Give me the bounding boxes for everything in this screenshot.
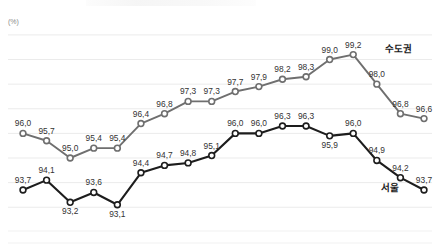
data-point-marker — [232, 130, 238, 136]
data-label: 95,9 — [321, 140, 338, 150]
data-label: 94,7 — [156, 150, 173, 160]
data-point-marker — [185, 98, 191, 104]
data-label: 95,0 — [62, 143, 79, 153]
series-label-seoul: 서울 — [381, 180, 399, 194]
data-label: 98,0 — [369, 69, 386, 79]
data-point-marker — [374, 158, 380, 164]
data-label: 96,3 — [298, 111, 315, 121]
data-point-marker — [162, 162, 168, 168]
data-point-marker — [138, 170, 144, 176]
data-point-marker — [162, 111, 168, 117]
data-point-marker — [350, 130, 356, 136]
data-point-marker — [232, 89, 238, 95]
data-label: 93,2 — [62, 206, 79, 216]
data-point-marker — [20, 187, 26, 193]
chart-container: (%) 96,095,795,095,495,496,496,897,397,3… — [0, 0, 435, 251]
data-point-marker — [421, 116, 427, 122]
data-label: 97,9 — [251, 72, 268, 82]
series-group — [20, 52, 427, 208]
series-line-seoul — [23, 126, 424, 205]
data-label: 96,0 — [345, 118, 362, 128]
data-label: 96,3 — [274, 111, 291, 121]
data-label: 97,3 — [204, 86, 221, 96]
data-label: 98,3 — [298, 62, 315, 72]
data-point-marker — [374, 81, 380, 87]
data-point-marker — [303, 123, 309, 129]
series-line-sudogwon — [23, 55, 424, 158]
data-point-marker — [67, 155, 73, 161]
data-point-marker — [67, 199, 73, 205]
data-label: 99,0 — [321, 45, 338, 55]
data-label: 95,4 — [86, 133, 103, 143]
data-point-marker — [421, 187, 427, 193]
data-label: 96,8 — [392, 99, 409, 109]
data-label: 96,6 — [416, 104, 433, 114]
data-point-marker — [327, 133, 333, 139]
line-chart-plot: 96,095,795,095,495,496,496,897,397,397,7… — [0, 0, 435, 251]
data-label: 96,4 — [133, 109, 150, 119]
data-point-marker — [44, 138, 50, 144]
data-label: 95,4 — [109, 133, 126, 143]
data-label: 96,8 — [156, 99, 173, 109]
data-point-marker — [114, 202, 120, 208]
data-label: 97,3 — [180, 86, 197, 96]
data-label: 93,7 — [416, 175, 433, 185]
data-label: 95,1 — [204, 141, 221, 151]
data-label: 93,6 — [86, 177, 103, 187]
data-point-marker — [350, 52, 356, 58]
data-label: 94,1 — [38, 165, 55, 175]
data-point-marker — [303, 74, 309, 80]
data-point-marker — [91, 190, 97, 196]
data-point-marker — [256, 84, 262, 90]
data-point-marker — [280, 123, 286, 129]
data-point-marker — [327, 57, 333, 63]
data-point-marker — [256, 130, 262, 136]
data-point-marker — [209, 153, 215, 159]
data-label: 94,2 — [392, 163, 409, 173]
data-label: 98,2 — [274, 64, 291, 74]
data-point-marker — [114, 145, 120, 151]
data-labels-group: 96,095,795,095,495,496,496,897,397,397,7… — [15, 40, 433, 219]
data-point-marker — [209, 98, 215, 104]
data-point-marker — [44, 177, 50, 183]
data-label: 99,2 — [345, 40, 362, 50]
data-label: 94,8 — [180, 148, 197, 158]
data-point-marker — [280, 76, 286, 82]
data-label: 94,9 — [369, 145, 386, 155]
data-point-marker — [91, 145, 97, 151]
data-label: 96,0 — [15, 118, 32, 128]
data-label: 94,4 — [133, 158, 150, 168]
data-label: 93,7 — [15, 175, 32, 185]
data-point-marker — [185, 160, 191, 166]
data-label: 96,0 — [251, 118, 268, 128]
data-point-marker — [138, 121, 144, 127]
series-label-sudogwon: 수도권 — [385, 41, 412, 55]
data-label: 96,0 — [227, 118, 244, 128]
data-point-marker — [20, 130, 26, 136]
data-label: 93,1 — [109, 209, 126, 219]
data-point-marker — [398, 111, 404, 117]
data-label: 95,7 — [38, 126, 55, 136]
data-label: 97,7 — [227, 77, 244, 87]
